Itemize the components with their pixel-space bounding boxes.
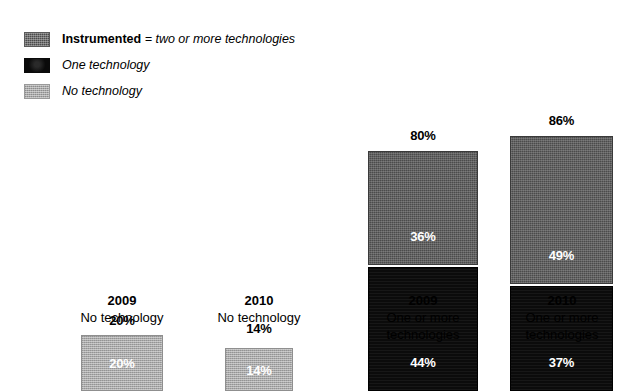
bar-segment-value-1: 20% <box>82 356 162 371</box>
category-desc-3-line2: technologies <box>348 326 498 343</box>
category-desc-4-line2: technologies <box>487 326 629 343</box>
category-year-3: 2009 <box>348 292 498 309</box>
bar-group-2009-no-technology: 20% 20% <box>81 108 163 391</box>
category-year-2: 2010 <box>184 292 334 309</box>
bar-segment-no-technology-2: 14% <box>225 348 293 391</box>
category-label-3: 2009 One or more technologies <box>348 292 498 343</box>
bar-group-2010-one-or-more: 86% 49% 37% <box>510 108 613 391</box>
bar-segment-value-3a: 36% <box>369 229 477 244</box>
bar-segment-value-3b: 44% <box>369 355 477 370</box>
stacked-bar-chart: Instrumented = two or more technologies … <box>0 0 629 391</box>
bar-stack-1: 20% <box>81 335 163 391</box>
bar-total-label-3: 80% <box>368 128 478 143</box>
category-year-4: 2010 <box>487 292 629 309</box>
bar-segment-value-4b: 37% <box>511 355 612 370</box>
bar-segment-no-technology-1: 20% <box>81 335 163 391</box>
bar-group-2009-one-or-more: 80% 36% 44% <box>368 108 478 391</box>
category-label-1: 2009 No technology <box>47 292 197 326</box>
bar-group-2010-no-technology: 14% 14% <box>225 108 293 391</box>
category-desc-1: No technology <box>47 309 197 326</box>
bar-stack-2: 14% <box>225 348 293 391</box>
category-desc-4-line1: One or more <box>487 309 629 326</box>
bar-stack-4: 49% 37% <box>510 136 613 391</box>
bar-stack-3: 36% 44% <box>368 151 478 391</box>
category-label-4: 2010 One or more technologies <box>487 292 629 343</box>
bar-segment-instrumented-4: 49% <box>510 136 613 284</box>
bar-segment-value-4a: 49% <box>511 248 612 263</box>
bar-total-label-4: 86% <box>510 113 613 128</box>
category-year-1: 2009 <box>47 292 197 309</box>
category-desc-3-line1: One or more <box>348 309 498 326</box>
bar-segment-value-2: 14% <box>226 362 292 377</box>
category-desc-2: No technology <box>184 309 334 326</box>
bar-segment-instrumented-3: 36% <box>368 151 478 265</box>
category-label-2: 2010 No technology <box>184 292 334 326</box>
plot-area: 20% 20% 2009 No technology 14% 14% 2010 … <box>0 0 629 391</box>
